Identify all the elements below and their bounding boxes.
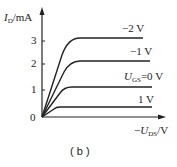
curve-0v [42,87,152,117]
series-label-plus-1v: 1 V [138,94,154,105]
y-axis-arrow-icon [40,7,45,15]
y-tick-2: 2 [31,58,37,69]
y-tick-0: 0 [30,112,36,123]
curve-minus-1v [42,61,150,117]
y-axis-label: ID/mA [4,12,32,25]
figure-caption: ( b ) [70,146,90,157]
curve-plus-1v [42,107,152,117]
x-axis-arrow-icon [158,115,166,120]
y-tick-1: 1 [31,84,37,95]
x-axis-label: −UDS/V [134,125,168,138]
series-label-0v: UGS=0 V [124,71,163,84]
y-tick-3: 3 [31,35,37,46]
series-label-minus-1v: −1 V [130,46,152,57]
series-label-minus-2v: −2 V [122,23,144,34]
